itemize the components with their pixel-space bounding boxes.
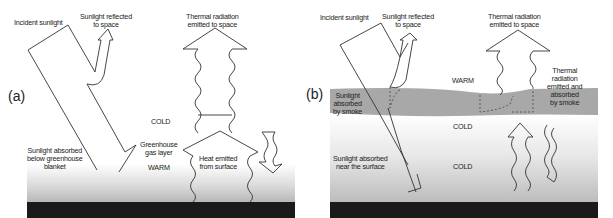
- label-cold-mid: COLD: [453, 123, 472, 131]
- label-sunlight-absorbed: Sunlight absorbedbelow greenhouseblanket: [27, 147, 83, 171]
- reflected-sunlight-arrow: [87, 29, 113, 85]
- label-greenhouse-gas-layer: Greenhousegas layer: [140, 141, 178, 157]
- label-cold-low: COLD: [453, 163, 472, 171]
- label-cold: COLD: [151, 118, 170, 126]
- panel-a-letter: (a): [8, 88, 25, 104]
- label-thermal-radiation: Thermal radiationemitted to space: [488, 13, 541, 29]
- label-thermal-radiation: Thermal radiationemitted to space: [186, 13, 239, 29]
- panel-a-graphic: [0, 0, 300, 218]
- ground: [330, 202, 598, 218]
- label-warm: WARM: [148, 164, 170, 172]
- panel-b-smoke: (b) Incident sunlight Sunlight reflected…: [300, 0, 613, 218]
- thermal-radiation-arrow: [486, 30, 550, 95]
- label-sunlight-absorbed-surface: Sunlight absorbednear the surface: [333, 155, 388, 171]
- label-sunlight-reflected: Sunlight reflectedto space: [382, 13, 434, 29]
- ground: [27, 202, 295, 218]
- label-sunlight-reflected: Sunlight reflectedto space: [80, 13, 132, 29]
- label-heat-emitted: Heat emittedfrom surface: [199, 155, 237, 171]
- label-incident-sunlight: Incident sunlight: [320, 14, 369, 22]
- panel-b-letter: (b): [306, 86, 323, 102]
- panel-a-greenhouse: (a) Incident sunlight Sunlight reflected…: [0, 0, 300, 218]
- label-sunlight-absorbed-smoke: Sunlightabsorbedby smoke: [333, 92, 362, 116]
- thermal-radiation-arrow: [183, 28, 247, 133]
- label-smoke-thermal: Thermalradiationemitted andabsorbedby sm…: [547, 67, 582, 107]
- label-incident-sunlight: Incident sunlight: [14, 19, 63, 27]
- label-warm: WARM: [452, 77, 474, 85]
